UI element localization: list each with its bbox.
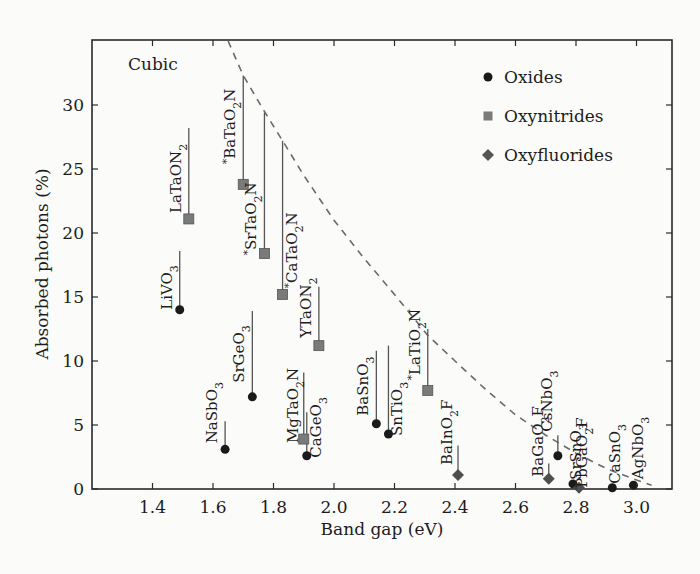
point-label: *SrTaO2N bbox=[241, 182, 265, 255]
y-tick-label: 25 bbox=[62, 159, 84, 179]
scatter-chart: LiVO3NaSbO3SrGeO3CaGeO3BaSnO3SnTiO3CsNbO… bbox=[0, 0, 700, 574]
legend: OxidesOxynitridesOxyfluorides bbox=[482, 67, 613, 165]
x-tick-label: 2.2 bbox=[381, 497, 408, 517]
oxide-point bbox=[248, 392, 257, 401]
point-label: LiVO3 bbox=[158, 265, 181, 310]
y-tick-label: 20 bbox=[62, 223, 84, 243]
x-tick-label: 2.6 bbox=[502, 497, 529, 517]
oxyfluoride-point bbox=[452, 469, 464, 481]
oxynitride-point bbox=[259, 248, 269, 258]
x-tick-label: 2.4 bbox=[441, 497, 468, 517]
x-tick-label: 1.6 bbox=[199, 497, 226, 517]
y-tick-label: 10 bbox=[62, 351, 84, 371]
point-label: CaGeO3 bbox=[307, 397, 330, 458]
legend-circle-icon bbox=[484, 73, 493, 82]
point-label: PbGaO2F bbox=[573, 417, 596, 487]
point-label: BaSnO3 bbox=[354, 356, 377, 415]
point-label: YTaON2 bbox=[297, 277, 320, 338]
legend-diamond-icon bbox=[482, 149, 494, 161]
oxynitride-point bbox=[278, 289, 288, 299]
oxide-point bbox=[372, 419, 381, 428]
oxynitride-point bbox=[314, 341, 324, 351]
point-label: SnTiO3 bbox=[388, 382, 411, 436]
y-tick-label: 0 bbox=[73, 479, 84, 499]
y-tick-label: 30 bbox=[62, 95, 84, 115]
oxide-point bbox=[221, 445, 230, 454]
point-label: LaTaON2 bbox=[167, 144, 190, 213]
x-tick-label: 2.8 bbox=[562, 497, 589, 517]
point-label: NaSbO3 bbox=[203, 382, 226, 443]
y-tick-label: 5 bbox=[73, 415, 84, 435]
oxide-point bbox=[175, 305, 184, 314]
x-tick-label: 3.0 bbox=[623, 497, 650, 517]
oxynitride-point bbox=[423, 385, 433, 395]
oxynitride-point bbox=[184, 214, 194, 224]
x-tick-label: 1.8 bbox=[260, 497, 287, 517]
cubic-annotation: Cubic bbox=[128, 54, 178, 74]
legend-square-icon bbox=[484, 112, 493, 121]
legend-label: Oxyfluorides bbox=[504, 145, 613, 165]
legend-label: Oxides bbox=[504, 67, 563, 87]
x-tick-label: 2.0 bbox=[320, 497, 347, 517]
point-label: *BaTaO2N bbox=[220, 89, 244, 165]
point-label: AgNbO3 bbox=[629, 417, 652, 481]
point-label: CaSnO3 bbox=[606, 424, 629, 484]
point-label: *LaTiO2N bbox=[405, 309, 429, 381]
y-axis-title: Absorbed photons (%) bbox=[32, 168, 52, 360]
legend-label: Oxynitrides bbox=[504, 106, 604, 126]
x-axis-title: Band gap (eV) bbox=[321, 519, 444, 539]
x-tick-label: 1.4 bbox=[139, 497, 166, 517]
point-label: *CaTaO2N bbox=[282, 212, 306, 288]
oxide-point bbox=[553, 451, 562, 460]
y-tick-label: 15 bbox=[62, 287, 84, 307]
point-label: SrGeO3 bbox=[230, 325, 253, 383]
